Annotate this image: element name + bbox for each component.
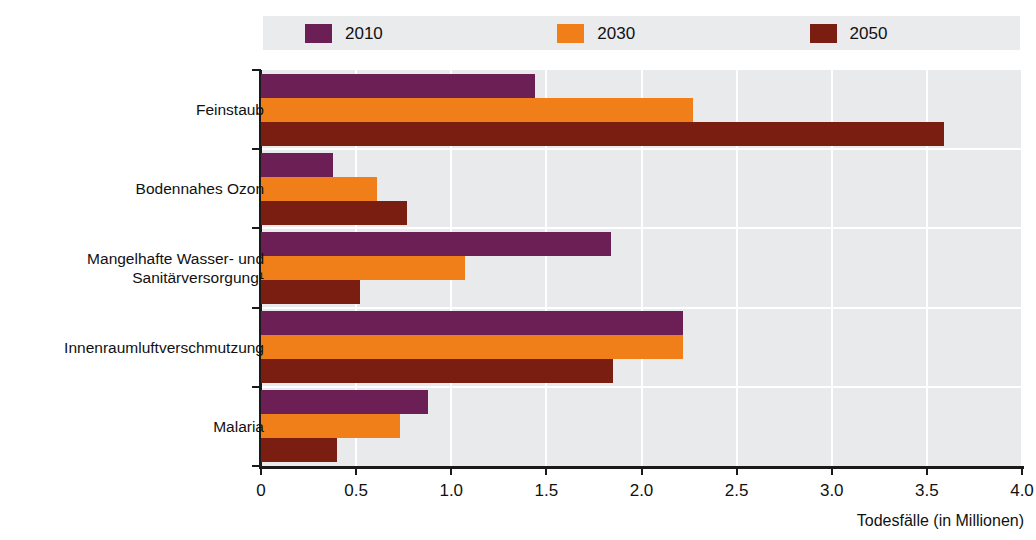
x-axis-tick-label: 2.5 bbox=[725, 481, 749, 501]
bar-2010-1 bbox=[261, 153, 333, 177]
bar-2010-2 bbox=[261, 232, 611, 256]
y-axis-tick bbox=[252, 465, 261, 467]
y-axis-tick bbox=[252, 386, 261, 388]
category-label: Feinstaub bbox=[0, 100, 264, 119]
x-axis-tick bbox=[736, 466, 738, 475]
x-axis-label: Todesfälle (in Millionen) bbox=[857, 512, 1024, 530]
x-axis-tick-label: 4.0 bbox=[1010, 481, 1034, 501]
y-axis-tick bbox=[252, 227, 261, 229]
y-axis-tick bbox=[252, 307, 261, 309]
bar-2050-0 bbox=[261, 122, 944, 146]
legend-swatch-icon bbox=[305, 24, 332, 43]
gridline-horizontal bbox=[261, 307, 1022, 309]
bar-2030-1 bbox=[261, 177, 377, 201]
x-axis-tick bbox=[926, 466, 928, 475]
gridline-vertical bbox=[1021, 70, 1023, 466]
legend-label: 2050 bbox=[850, 25, 888, 42]
x-axis-tick-label: 3.0 bbox=[820, 481, 844, 501]
page-title bbox=[150, 0, 910, 8]
x-axis-tick-label: 0.5 bbox=[344, 481, 368, 501]
category-label: Malaria bbox=[0, 417, 264, 436]
gridline-horizontal bbox=[261, 386, 1022, 388]
bar-2050-2 bbox=[261, 280, 360, 304]
x-axis-line bbox=[261, 466, 1024, 469]
bar-2030-0 bbox=[261, 98, 693, 122]
bar-2030-2 bbox=[261, 256, 465, 280]
y-axis-tick bbox=[252, 148, 261, 150]
legend-label: 2010 bbox=[345, 25, 383, 42]
bar-2050-1 bbox=[261, 201, 407, 225]
bar-2030-3 bbox=[261, 335, 683, 359]
bar-2010-4 bbox=[261, 390, 428, 414]
legend-label: 2030 bbox=[597, 25, 635, 42]
category-label: Mangelhafte Wasser- und Sanitärversorgun… bbox=[0, 249, 264, 287]
bar-2050-3 bbox=[261, 359, 613, 383]
legend-item-2030[interactable]: 2030 bbox=[515, 24, 767, 43]
x-axis-tick bbox=[641, 466, 643, 475]
x-axis-tick-label: 2.0 bbox=[630, 481, 654, 501]
chart-legend: 201020302050 bbox=[263, 16, 1020, 50]
legend-swatch-icon bbox=[557, 24, 584, 43]
category-label: Bodennahes Ozon bbox=[0, 179, 264, 198]
x-axis-tick bbox=[1021, 466, 1023, 475]
x-axis-tick-label: 1.0 bbox=[439, 481, 463, 501]
x-axis-tick bbox=[355, 466, 357, 475]
gridline-horizontal bbox=[261, 227, 1022, 229]
x-axis-tick bbox=[831, 466, 833, 475]
bar-2050-4 bbox=[261, 438, 337, 462]
bar-2030-4 bbox=[261, 414, 400, 438]
legend-item-2010[interactable]: 2010 bbox=[263, 24, 515, 43]
legend-item-2050[interactable]: 2050 bbox=[768, 24, 1020, 43]
bar-2010-3 bbox=[261, 311, 683, 335]
y-axis-tick bbox=[252, 69, 261, 71]
category-label: Innenraumluftverschmutzung bbox=[0, 338, 264, 357]
x-axis-tick-label: 0 bbox=[256, 481, 265, 501]
x-axis-tick bbox=[450, 466, 452, 475]
x-axis-tick bbox=[260, 466, 262, 475]
x-axis-tick bbox=[545, 466, 547, 475]
legend-swatch-icon bbox=[810, 24, 837, 43]
x-axis-tick-label: 1.5 bbox=[535, 481, 559, 501]
x-axis-tick-label: 3.5 bbox=[915, 481, 939, 501]
bar-2010-0 bbox=[261, 74, 535, 98]
gridline-horizontal bbox=[261, 148, 1022, 150]
